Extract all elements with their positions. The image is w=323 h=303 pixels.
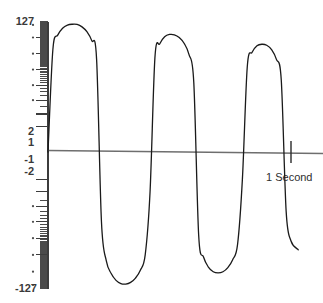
y-axis-dot-marker [32, 53, 34, 55]
y-axis-dot-marker [32, 99, 34, 101]
y-axis-dot-marker [32, 205, 34, 207]
y-axis-labels: 127 2 1 -1 -2 -127 [15, 15, 37, 294]
y-label-neg-one: -1 [24, 153, 34, 165]
waveform-figure: 127 2 1 -1 -2 -127 1 Second [0, 0, 323, 303]
damped-sine-waveform [48, 24, 298, 284]
y-axis-dot-marker [32, 237, 34, 239]
y-axis-dot-marker [32, 69, 34, 71]
y-label-min: -127 [15, 282, 37, 294]
one-second-label: 1 Second [266, 171, 312, 183]
y-axis-dot-marker [32, 271, 34, 273]
y-label-max: 127 [16, 15, 34, 27]
y-axis-dot-marker [32, 36, 34, 38]
y-axis-dot-marker [32, 221, 34, 223]
y-label-pos-one: 1 [28, 136, 34, 148]
time-axis-line [48, 151, 323, 154]
damped-sine-chart: 127 2 1 -1 -2 -127 1 Second [0, 0, 323, 303]
y-axis-dot-marker [32, 254, 34, 256]
y-axis-tick-ladder [36, 22, 48, 289]
y-axis-dot-marker [32, 84, 34, 86]
y-label-neg-two: -2 [24, 165, 34, 177]
